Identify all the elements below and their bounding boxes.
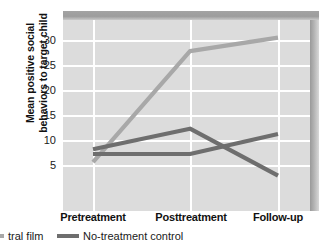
plot-frame-top-bevel bbox=[63, 11, 319, 20]
gridline-horizontal-30 bbox=[63, 40, 310, 42]
y-tick-label-15: 15 bbox=[30, 109, 56, 121]
gridline-horizontal-5 bbox=[63, 165, 310, 167]
y-tick-label-25: 25 bbox=[30, 59, 56, 71]
legend-swatch-icon-tral-film bbox=[0, 234, 4, 238]
gridline-vertical-pretreatment bbox=[93, 20, 95, 211]
gridline-horizontal-10 bbox=[63, 140, 310, 142]
line-chart-figure: Mean positive social behaviors to target… bbox=[0, 0, 327, 246]
chart-legend: tral film No-treatment control bbox=[0, 229, 327, 246]
gridline-vertical-posttreatment bbox=[190, 20, 192, 211]
gridline-horizontal-15 bbox=[63, 115, 310, 117]
legend-swatch-icon-no-treatment-control bbox=[57, 234, 79, 238]
y-tick-label-10: 10 bbox=[30, 134, 56, 146]
plot-frame-right-bevel bbox=[310, 11, 319, 211]
legend-item-tral-film: tral film bbox=[0, 230, 43, 242]
legend-label-no-treatment-control: No-treatment control bbox=[83, 230, 183, 242]
x-tick-label-followup: Follow-up bbox=[232, 211, 324, 223]
legend-item-no-treatment-control: No-treatment control bbox=[57, 230, 183, 242]
gridline-horizontal-25 bbox=[63, 65, 310, 67]
y-tick-label-20: 20 bbox=[30, 84, 56, 96]
gridline-horizontal-20 bbox=[63, 90, 310, 92]
y-tick-label-30: 30 bbox=[30, 34, 56, 46]
gridline-vertical-followup bbox=[278, 20, 280, 211]
legend-label-tral-film: tral film bbox=[8, 230, 43, 242]
y-tick-label-5: 5 bbox=[30, 159, 56, 171]
